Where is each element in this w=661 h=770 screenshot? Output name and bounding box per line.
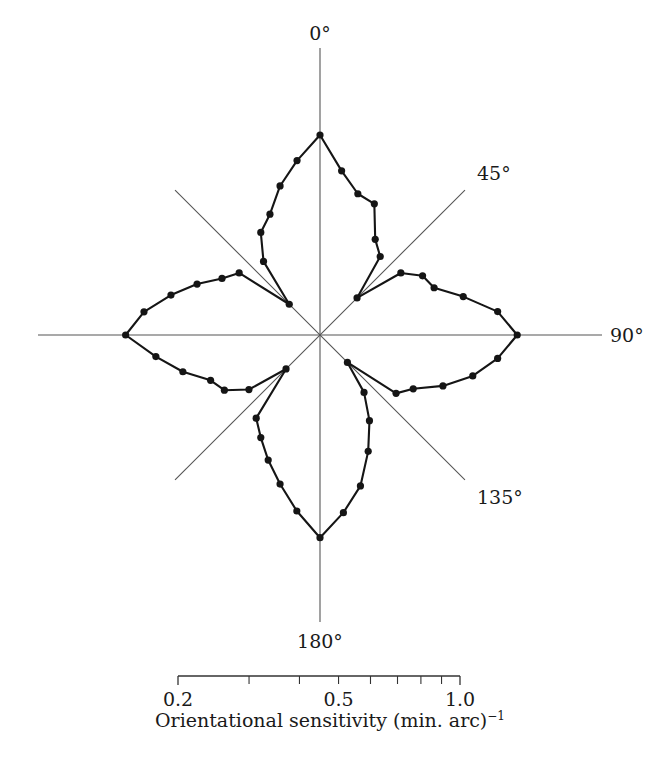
data-point-marker <box>316 534 323 541</box>
angle-label-45: 45° <box>477 162 511 184</box>
scalebar-tick-label: 0.2 <box>163 688 193 710</box>
data-point-marker <box>218 275 225 282</box>
data-point-marker <box>357 482 364 489</box>
data-point-marker <box>469 372 476 379</box>
data-point-marker <box>365 448 372 455</box>
axis-caption: Orientational sensitivity (min. arc)−1 <box>155 709 505 731</box>
data-point-marker <box>179 368 186 375</box>
data-point-marker <box>353 294 360 301</box>
data-point-marker <box>260 258 267 265</box>
data-point-marker <box>207 377 214 384</box>
data-point-marker <box>338 167 345 174</box>
data-point-marker <box>221 387 228 394</box>
axis-caption-main: Orientational sensitivity (min. arc) <box>155 709 487 731</box>
data-point-marker <box>245 386 252 393</box>
data-point-marker <box>460 293 467 300</box>
data-point-marker <box>371 200 378 207</box>
data-point-marker <box>257 434 264 441</box>
scalebar-tick-label: 1.0 <box>445 688 475 710</box>
data-point-marker <box>236 269 243 276</box>
data-point-marker <box>293 507 300 514</box>
data-point-marker <box>276 480 283 487</box>
data-point-marker <box>360 389 367 396</box>
data-point-marker <box>494 355 501 362</box>
angle-label-90: 90° <box>610 324 644 346</box>
axis-caption-exponent: −1 <box>487 709 505 723</box>
data-point-marker <box>344 359 351 366</box>
data-point-marker <box>293 157 300 164</box>
figure-canvas: 0°45°90°135°180°0.20.51.0Orientational s… <box>0 0 661 770</box>
data-point-marker <box>410 385 417 392</box>
data-point-marker <box>276 182 283 189</box>
data-point-marker <box>265 456 272 463</box>
angle-label-0: 0° <box>309 22 331 44</box>
data-point-marker <box>419 272 426 279</box>
data-point-marker <box>366 417 373 424</box>
data-point-marker <box>140 308 147 315</box>
scalebar-tick-label: 0.5 <box>323 688 353 710</box>
data-point-marker <box>286 301 293 308</box>
data-point-marker <box>282 365 289 372</box>
data-point-marker <box>372 236 379 243</box>
data-point-marker <box>193 280 200 287</box>
data-point-marker <box>514 331 521 338</box>
data-point-marker <box>494 308 501 315</box>
data-point-marker <box>167 291 174 298</box>
data-point-marker <box>266 211 273 218</box>
data-point-marker <box>377 253 384 260</box>
data-point-marker <box>257 229 264 236</box>
data-point-marker <box>430 284 437 291</box>
data-point-marker <box>253 415 260 422</box>
polar-plot-svg: 0°45°90°135°180°0.20.51.0Orientational s… <box>0 0 661 770</box>
data-point-marker <box>122 331 129 338</box>
data-point-marker <box>152 353 159 360</box>
angle-label-180: 180° <box>297 630 343 652</box>
angle-label-135: 135° <box>477 486 523 508</box>
data-point-marker <box>397 269 404 276</box>
data-point-marker <box>392 390 399 397</box>
data-point-marker <box>439 382 446 389</box>
data-point-marker <box>340 509 347 516</box>
data-point-marker <box>316 131 323 138</box>
data-point-marker <box>354 190 361 197</box>
